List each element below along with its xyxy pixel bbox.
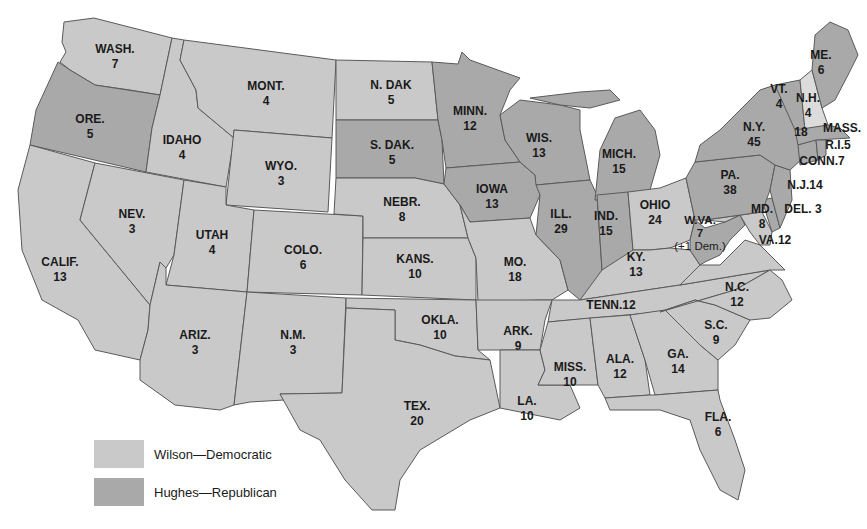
label-ark: ARK.9: [503, 324, 532, 354]
label-nc: N.C.12: [725, 280, 749, 310]
label-mo: MO.18: [504, 255, 527, 285]
legend-item-democratic: Wilson—Democratic: [94, 440, 277, 468]
label-ariz: ARIZ.3: [179, 328, 210, 358]
label-kans: KANS.10: [396, 252, 433, 282]
label-ind: IND.15: [594, 209, 618, 239]
label-ri: R.I.5: [825, 138, 850, 153]
label-nj: N.J.14: [787, 178, 822, 193]
label-tex: TEX.20: [404, 399, 431, 429]
label-mass-votes: 18: [794, 125, 807, 140]
label-ky: KY.13: [627, 250, 646, 280]
label-tenn: TENN.12: [586, 298, 635, 313]
state-fla: [605, 390, 745, 500]
label-mont: MONT.4: [247, 79, 284, 109]
label-md: MD.8: [751, 202, 773, 232]
label-ill: ILL.29: [550, 207, 571, 237]
label-va: VA.12: [759, 233, 791, 248]
label-idaho: IDAHO4: [163, 133, 202, 163]
label-nm: N.M.3: [280, 328, 305, 358]
legend-item-republican: Hughes—Republican: [94, 478, 277, 506]
label-miss: MISS.10: [554, 360, 587, 390]
label-wash: WASH.7: [95, 42, 134, 72]
label-nebr: NEBR.8: [383, 195, 420, 225]
label-colo: COLO.6: [284, 243, 322, 273]
label-sc: S.C.9: [704, 318, 727, 348]
label-ore: ORE.5: [75, 112, 104, 142]
label-ndak: N. DAK5: [370, 78, 411, 108]
label-wyo: WYO.3: [265, 159, 297, 189]
label-iowa: IOWA13: [476, 182, 508, 212]
label-ny: N.Y.45: [743, 120, 765, 150]
label-fla: FLA.6: [705, 410, 732, 440]
label-nev: NEV.3: [119, 207, 146, 237]
label-vt: VT.4: [770, 82, 787, 112]
label-wva: W.VA.7(+1 Dem.): [674, 214, 725, 253]
label-del: DEL. 3: [784, 202, 821, 217]
legend-label-republican: Hughes—Republican: [154, 485, 277, 500]
label-minn: MINN.12: [453, 104, 487, 134]
label-nh: N.H.4: [796, 91, 820, 121]
label-mass-abbr: MASS.: [823, 121, 861, 136]
label-utah: UTAH4: [196, 228, 228, 258]
swatch-republican: [94, 478, 144, 506]
label-sdak: S. DAK.5: [370, 138, 414, 168]
label-okla: OKLA.10: [421, 313, 458, 343]
label-ga: GA.14: [667, 347, 688, 377]
swatch-democratic: [94, 440, 144, 468]
label-la: LA.10: [517, 394, 536, 424]
label-mich: MICH.15: [602, 147, 636, 177]
map-legend: Wilson—Democratic Hughes—Republican: [94, 440, 277, 516]
label-calif: CALIF.13: [41, 255, 78, 285]
label-ala: ALA.12: [606, 352, 634, 382]
legend-label-democratic: Wilson—Democratic: [154, 447, 272, 462]
label-wis: WIS.13: [526, 131, 552, 161]
label-me: ME.6: [810, 48, 831, 78]
label-conn: CONN.7: [799, 154, 844, 169]
label-ohio: OHIO24: [640, 198, 671, 228]
label-pa: PA.38: [720, 168, 739, 198]
